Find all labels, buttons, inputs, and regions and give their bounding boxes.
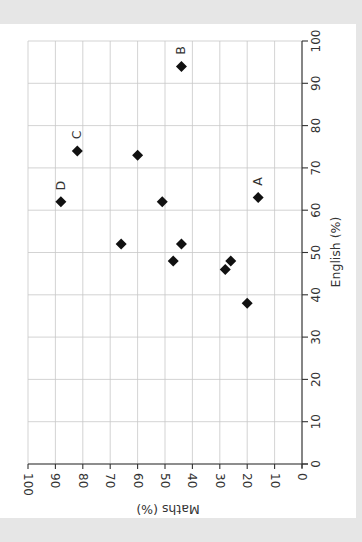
tick-label-english-10: 10: [309, 414, 323, 429]
point-label-B: B: [173, 46, 188, 55]
tick-label-maths-50: 50: [158, 473, 172, 488]
point-label-A: A: [250, 177, 265, 186]
scatter-chart: 0102030405060708090100010203040506070809…: [0, 24, 356, 518]
tick-label-english-40: 40: [309, 287, 323, 302]
tick-label-maths-40: 40: [185, 473, 199, 488]
data-point-B: [176, 61, 187, 72]
maths-axis-label: Maths (%): [136, 502, 199, 517]
tick-label-maths-0: 0: [295, 473, 309, 481]
english-axis-label: English (%): [328, 217, 343, 288]
tick-label-maths-60: 60: [131, 473, 145, 488]
data-point-D: [55, 196, 66, 207]
data-point-6: [116, 239, 127, 250]
point-label-D: D: [53, 181, 68, 191]
tick-label-english-20: 20: [309, 372, 323, 387]
tick-label-maths-10: 10: [268, 473, 282, 488]
tick-label-english-30: 30: [309, 329, 323, 344]
tick-label-maths-20: 20: [240, 473, 254, 488]
tick-label-maths-100: 100: [21, 473, 35, 496]
tick-label-maths-90: 90: [48, 473, 62, 488]
chart-page: 0102030405060708090100010203040506070809…: [0, 24, 356, 518]
axis-labels: English (%) Maths (%): [136, 217, 343, 517]
tick-label-english-100: 100: [309, 30, 323, 53]
data-point-C: [72, 145, 83, 156]
tick-label-english-60: 60: [309, 203, 323, 218]
data-point-11: [242, 298, 253, 309]
point-label-C: C: [69, 130, 84, 139]
data-points: BCDA: [53, 46, 265, 309]
tick-label-english-90: 90: [309, 76, 323, 91]
data-point-10: [220, 264, 231, 275]
grid-lines: [28, 41, 302, 464]
tick-label-english-80: 80: [309, 118, 323, 133]
tick-label-english-70: 70: [309, 160, 323, 175]
tick-label-maths-80: 80: [76, 473, 90, 488]
tick-label-maths-70: 70: [103, 473, 117, 488]
data-point-7: [176, 239, 187, 250]
data-point-4: [157, 196, 168, 207]
axes: [28, 41, 308, 469]
data-point-A: [253, 192, 264, 203]
tick-label-maths-30: 30: [213, 473, 227, 488]
data-point-8: [168, 255, 179, 266]
data-point-9: [225, 255, 236, 266]
tick-label-english-50: 50: [309, 245, 323, 260]
tick-label-english-0: 0: [309, 460, 323, 468]
data-point-2: [132, 150, 143, 161]
